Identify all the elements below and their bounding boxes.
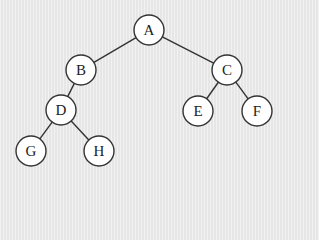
- edge-d-h: [71, 121, 89, 140]
- node-label: F: [253, 103, 261, 119]
- tree-node-h: H: [84, 136, 114, 166]
- edge-a-b: [94, 38, 136, 63]
- edge-a-c: [162, 37, 213, 63]
- tree-nodes: ABCDEFGH: [16, 15, 272, 166]
- tree-node-g: G: [16, 136, 46, 166]
- edge-c-e: [207, 82, 219, 99]
- tree-edges: [40, 37, 248, 140]
- tree-node-a: A: [134, 15, 164, 45]
- node-label: E: [193, 103, 202, 119]
- edge-c-f: [236, 82, 248, 99]
- tree-node-b: B: [66, 55, 96, 85]
- tree-node-f: F: [242, 96, 272, 126]
- node-label: C: [222, 62, 232, 78]
- node-label: B: [76, 62, 86, 78]
- node-label: A: [144, 22, 155, 38]
- node-label: G: [26, 143, 37, 159]
- tree-node-e: E: [183, 96, 213, 126]
- node-label: H: [94, 143, 105, 159]
- binary-tree-diagram: ABCDEFGH: [0, 0, 293, 176]
- edge-b-d: [68, 83, 75, 96]
- edge-d-g: [40, 122, 52, 139]
- tree-node-d: D: [46, 95, 76, 125]
- tree-node-c: C: [212, 55, 242, 85]
- node-label: D: [56, 102, 67, 118]
